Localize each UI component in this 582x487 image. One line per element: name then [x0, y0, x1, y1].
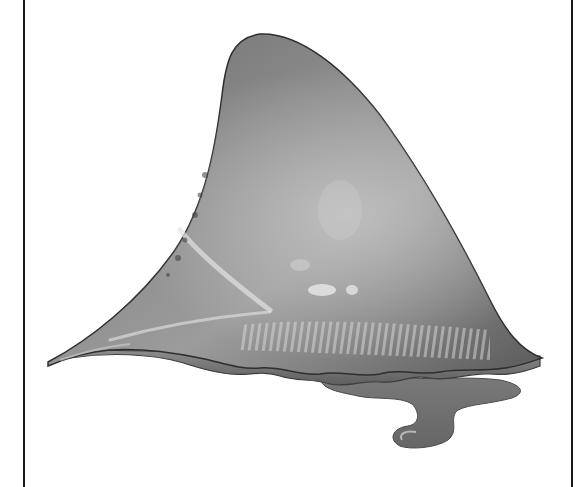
shark-fin-illustration [0, 0, 582, 487]
